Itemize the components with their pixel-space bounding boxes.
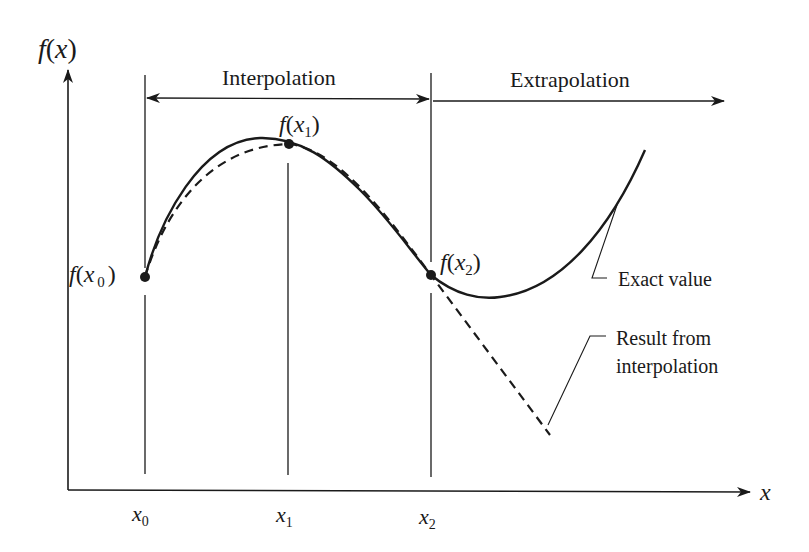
- point-x2: [426, 270, 436, 280]
- x-axis-label: x: [759, 479, 771, 505]
- result-leader: [548, 336, 606, 425]
- result-label-line1: Result from: [616, 327, 711, 349]
- exact-curve: [145, 138, 645, 298]
- interpolation-label: Interpolation: [222, 65, 336, 90]
- point-x0: [140, 272, 150, 282]
- tick-label-x0: x0: [131, 501, 149, 529]
- tick-label-x2: x2: [418, 504, 436, 532]
- result-label-line2: interpolation: [616, 355, 718, 378]
- point-label-x2: f(x2): [440, 249, 481, 278]
- interpolation-arrow: [147, 98, 429, 99]
- exact-value-label: Exact value: [618, 268, 712, 290]
- point-label-x0: f(x0): [69, 261, 116, 290]
- x-axis: [68, 490, 750, 492]
- y-axis-label: f(x): [38, 33, 77, 64]
- point-x1: [284, 139, 294, 149]
- tick-label-x1: x1: [275, 502, 293, 530]
- exact-value-leader: [592, 205, 617, 278]
- interpolation-curve: [145, 144, 550, 435]
- point-label-x1: f(x1): [279, 111, 320, 140]
- extrapolation-label: Extrapolation: [510, 67, 630, 92]
- interpolation-diagram: f(x) x Interpolation Extrapolation f(x1)…: [0, 0, 809, 552]
